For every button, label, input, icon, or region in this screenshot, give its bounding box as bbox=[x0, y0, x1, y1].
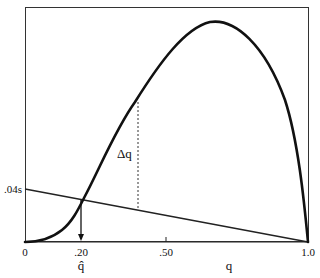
x-tick-label-100: 1.0 bbox=[301, 247, 315, 258]
delta-q-curve bbox=[25, 22, 308, 242]
x-tick-label-20: .20 bbox=[74, 247, 88, 258]
x-tick-label-50: .50 bbox=[159, 247, 173, 258]
y-intercept-label: .04s bbox=[4, 184, 22, 195]
delta-q-label: Δq bbox=[117, 147, 132, 160]
plot-frame bbox=[26, 8, 309, 242]
chart-canvas bbox=[0, 0, 320, 278]
x-tick-label-0: 0 bbox=[22, 247, 28, 258]
arrow-down-icon bbox=[78, 234, 84, 241]
selection-line bbox=[25, 189, 308, 242]
q-hat-label: q̂ bbox=[78, 259, 85, 272]
x-axis-label: q bbox=[226, 259, 233, 272]
